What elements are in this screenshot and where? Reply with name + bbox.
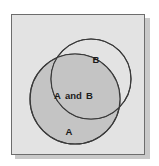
intersection-label-connector: and — [65, 90, 82, 101]
intersection-label-b: B — [86, 90, 93, 101]
venn-diagram-svg: B A and B A — [12, 15, 144, 154]
intersection-label-group: A and B — [54, 90, 93, 101]
venn-diagram-figure: B A and B A — [0, 0, 159, 166]
intersection-label-a: A — [54, 90, 61, 101]
set-a-label: A — [66, 126, 73, 137]
venn-diagram-panel: B A and B A — [11, 14, 145, 155]
set-b-label: B — [93, 54, 100, 65]
